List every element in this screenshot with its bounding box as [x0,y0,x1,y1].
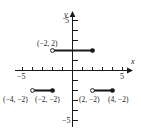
open-endpoint-minus2-2 [51,49,55,53]
x-tick-label-negative-five: −5 [17,73,26,81]
point-label-4-minus2: (4, −2) [108,96,128,104]
open-endpoint-minus4-minus2 [31,89,35,93]
segment-right [91,88,115,92]
coordinate-plane-figure: y x −5 5 5 −5 (−2, 2) (−4, −2) (−2, −2) … [0,0,141,129]
point-label-minus2-minus2: (−2, −2) [35,96,60,104]
point-label-minus2-2: (−2, 2) [37,40,57,48]
y-tick-label-positive-five: 5 [65,17,69,25]
graph-canvas [0,0,141,129]
x-tick-label-positive-five: 5 [120,73,124,81]
open-endpoint-2-minus2 [91,89,95,93]
y-axis-arrowhead [70,11,76,17]
x-axis-label: x [131,58,135,66]
point-label-minus4-minus2: (−4, −2) [3,96,28,104]
segment-left [31,88,55,92]
x-axis-arrowhead [127,68,133,74]
y-tick-label-negative-five: −5 [62,117,71,125]
closed-endpoint-2-2 [90,48,94,52]
closed-endpoint-minus2-minus2 [50,88,54,92]
point-label-2-minus2: (2, −2) [79,96,99,104]
closed-endpoint-4-minus2 [110,88,114,92]
